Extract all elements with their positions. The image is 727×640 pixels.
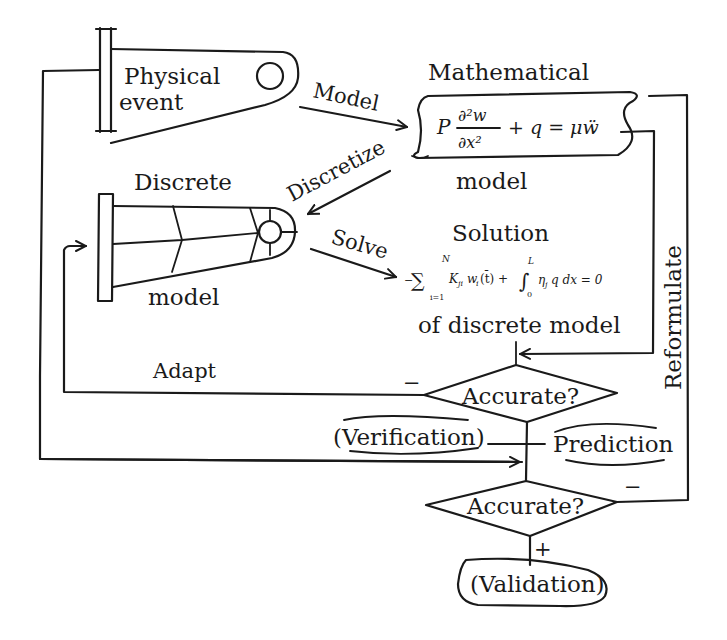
physical-event-node: Physical event xyxy=(96,28,298,143)
decision-2-label: Accurate? xyxy=(466,493,584,519)
eq-sum-icon: ∑ xyxy=(411,269,425,291)
equation-P: P xyxy=(436,115,451,139)
eq-sum-upper: N xyxy=(441,254,451,264)
eq-t: (t̄) + xyxy=(480,270,508,286)
prediction-oval-bottom xyxy=(566,460,664,465)
prediction-node: Prediction xyxy=(553,424,673,465)
eq-sum-lower: i=1 xyxy=(430,293,444,302)
mathematical-model-label-bottom: model xyxy=(456,168,527,194)
solution-label-top: Solution xyxy=(452,220,549,246)
validation-node: (Validation) xyxy=(458,559,607,606)
flowchart-canvas: Physical event Model Mathematical P ∂²w … xyxy=(0,0,727,640)
discrete-model-label-top: Discrete xyxy=(134,169,232,195)
discrete-model-node: Discrete model xyxy=(98,169,297,310)
eq-int-upper: L xyxy=(527,256,534,266)
discrete-hole-icon xyxy=(259,221,281,243)
eq-rest: q dx = 0 xyxy=(551,273,603,287)
physical-event-label-1: Physical xyxy=(124,63,220,89)
discrete-model-label-bottom: model xyxy=(148,284,219,310)
mesh-line-1-icon xyxy=(172,206,182,272)
discretize-edge-label: Discretize xyxy=(283,135,389,207)
decision-2-yes-label: + xyxy=(534,537,552,561)
mesh-centerline-icon xyxy=(113,233,258,244)
adapt-edge-label: Adapt xyxy=(152,359,217,383)
edge-model: Model xyxy=(300,78,407,127)
physical-event-label-2: event xyxy=(119,89,184,115)
physical-to-decision-arrow-icon xyxy=(40,459,520,462)
decision-1-node: Accurate? − xyxy=(403,365,617,422)
eq-int-lower: 0 xyxy=(527,290,532,299)
flowchart-svg: Physical event Model Mathematical P ∂²w … xyxy=(0,0,727,640)
edge-discretize: Discretize xyxy=(283,135,390,214)
mesh-line-2-icon xyxy=(250,208,258,262)
eq-w-sub: i xyxy=(476,279,479,288)
discrete-wall-icon xyxy=(98,194,113,301)
validation-label: (Validation) xyxy=(470,571,605,597)
eq-K-sub: ji xyxy=(456,279,463,288)
equation-rest: + q = μẅ xyxy=(508,116,599,138)
decision-spine-line xyxy=(526,422,527,480)
wall-plate-icon xyxy=(96,28,116,132)
verification-node: (Verification) xyxy=(333,416,545,454)
reformulate-edge-label: Reformulate xyxy=(660,245,686,390)
decision-1-label: Accurate? xyxy=(461,383,579,409)
discrete-beam-outline-icon xyxy=(113,206,295,287)
decision-2-no-label: − xyxy=(624,475,642,499)
mathematical-model-node: Mathematical P ∂²w ∂x² + q = μẅ model xyxy=(412,59,637,194)
solution-node: Solution − ∑ N i=1 K ji w i (t̄) + ∫ L 0… xyxy=(404,220,621,338)
verification-label: (Verification) xyxy=(333,424,485,450)
decision-1-no-label: − xyxy=(403,371,421,395)
edge-solve: Solve xyxy=(311,225,396,277)
mesh-hole-spokes-icon xyxy=(270,210,297,255)
prediction-label: Prediction xyxy=(553,431,673,457)
solution-label-bottom: of discrete model xyxy=(418,312,621,338)
mathematical-model-label-top: Mathematical xyxy=(428,59,589,85)
equation-denominator: ∂x² xyxy=(458,133,482,152)
verification-oval-top xyxy=(344,416,468,420)
hole-circle-icon xyxy=(257,63,283,89)
equation-numerator: ∂²w xyxy=(458,106,487,125)
decision-2-node: Accurate? xyxy=(426,481,617,536)
